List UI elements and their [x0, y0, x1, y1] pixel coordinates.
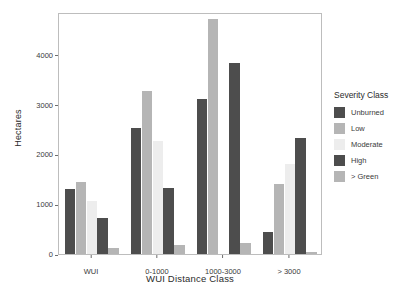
- x-axis-tick-mark: [223, 255, 224, 258]
- bar-group: [257, 14, 323, 254]
- y-axis-tick-label: 1000: [36, 201, 53, 209]
- bar: [97, 218, 108, 254]
- legend-swatch: [334, 155, 345, 166]
- legend-item-label: Low: [351, 125, 365, 133]
- bar: [240, 243, 251, 254]
- y-axis-tick-label: 0: [49, 251, 53, 259]
- legend-swatch: [334, 171, 345, 182]
- legend-swatch: [334, 123, 345, 134]
- legend-item: Low: [334, 121, 410, 136]
- bar: [153, 141, 164, 254]
- legend-item-label: > Green: [351, 173, 378, 181]
- bar-chart-figure: Hectares 01000200030004000 WUI0-10001000…: [0, 0, 410, 295]
- bar: [163, 188, 174, 254]
- bar-group: [125, 14, 191, 254]
- bar: [142, 91, 153, 254]
- x-axis: WUI0-10001000-3000> 3000: [58, 255, 322, 275]
- bar: [76, 182, 87, 254]
- legend-swatch: [334, 107, 345, 118]
- y-axis-tick-label: 2000: [36, 151, 53, 159]
- legend-item-label: Moderate: [351, 141, 383, 149]
- bar: [87, 201, 98, 254]
- bar-group: [59, 14, 125, 254]
- plot-panel: [58, 13, 322, 255]
- bar: [295, 138, 306, 254]
- bar: [131, 128, 142, 254]
- x-axis-title: WUI Distance Class: [58, 273, 322, 284]
- x-axis-title-text: WUI Distance Class: [146, 273, 234, 284]
- bar: [65, 189, 76, 254]
- y-axis-tick-label: 4000: [36, 52, 53, 60]
- bar: [263, 232, 274, 254]
- legend-swatch: [334, 139, 345, 150]
- x-axis-tick-mark: [91, 255, 92, 258]
- bar: [208, 19, 219, 255]
- legend: Severity Class UnburnedLowModerateHigh> …: [334, 90, 410, 185]
- legend-item-label: Unburned: [351, 109, 384, 117]
- bar: [306, 252, 317, 254]
- y-axis-title: Hectares: [10, 0, 26, 255]
- legend-item: High: [334, 153, 410, 168]
- bar-group: [191, 14, 257, 254]
- bar: [108, 248, 119, 254]
- bar: [197, 99, 208, 254]
- y-axis-title-text: Hectares: [13, 109, 23, 147]
- y-axis-tick-label: 3000: [36, 102, 53, 110]
- x-axis-tick-mark: [156, 255, 157, 258]
- bar: [285, 164, 296, 254]
- legend-title: Severity Class: [334, 90, 410, 100]
- bar: [229, 63, 240, 254]
- legend-item-label: High: [351, 157, 366, 165]
- y-axis: 01000200030004000: [26, 13, 58, 255]
- bar: [174, 245, 185, 254]
- legend-items: UnburnedLowModerateHigh> Green: [334, 105, 410, 184]
- legend-item: > Green: [334, 169, 410, 184]
- plot-area: [59, 14, 321, 254]
- x-axis-tick-mark: [289, 255, 290, 258]
- legend-item: Moderate: [334, 137, 410, 152]
- legend-item: Unburned: [334, 105, 410, 120]
- bar: [274, 184, 285, 254]
